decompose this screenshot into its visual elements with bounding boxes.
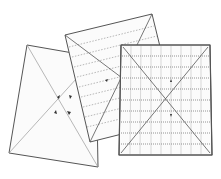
diagram-canvas [0,0,221,179]
paper-sheets-illustration [0,0,221,179]
sheet-right [119,45,212,155]
